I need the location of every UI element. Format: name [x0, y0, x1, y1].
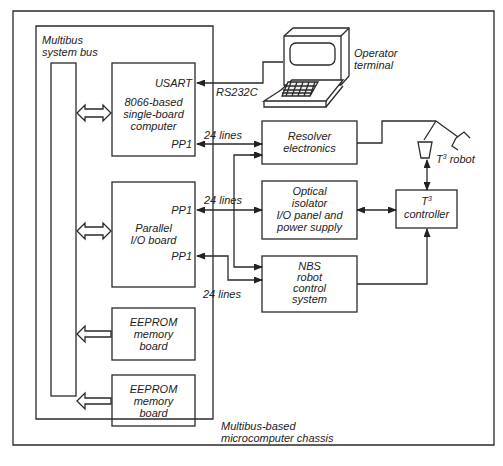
sbc-line1: 8066-based	[112, 96, 195, 108]
sbc-line3: computer	[112, 120, 195, 132]
lines-label-2: 24 lines	[204, 194, 242, 206]
robot-prefix: T	[436, 153, 443, 165]
sbc-pp1-label: PP1	[120, 138, 192, 150]
eeprom1-line3: board	[112, 340, 195, 352]
terminal-label-line1: Operator	[354, 47, 397, 59]
eeprom2-line1: EEPROM	[112, 383, 195, 395]
terminal-label-line2: terminal	[354, 59, 393, 71]
controller-line2: controller	[396, 208, 457, 220]
optical-line4: power supply	[262, 221, 357, 233]
optical-line2: isolator	[262, 197, 357, 209]
nbs-line4: system	[262, 293, 357, 305]
diagram-drawing	[0, 0, 503, 466]
bus-label-line1: Multibus	[42, 34, 83, 46]
resolver-line2: electronics	[262, 142, 357, 154]
eeprom2-line2: memory	[112, 395, 195, 407]
eeprom1-line1: EEPROM	[112, 316, 195, 328]
robot-suffix: robot	[447, 153, 475, 165]
sbc-usart-label: USART	[120, 77, 192, 89]
pio-pp1-bottom-label: PP1	[120, 250, 192, 262]
controller-sup: 3	[428, 195, 432, 202]
resolver-line1: Resolver	[262, 130, 357, 142]
bus-label-line2: system bus	[42, 46, 98, 58]
controller-prefix: T	[421, 195, 428, 207]
rs232-label: RS232C	[216, 86, 258, 98]
optical-line1: Optical	[262, 185, 357, 197]
pio-line2: I/O board	[112, 234, 195, 246]
chassis-label-line2: microcomputer chassis	[221, 432, 333, 444]
pio-pp1-top-label: PP1	[120, 204, 192, 216]
sbc-line2: single-board	[112, 108, 195, 120]
robot-label: T3 robot	[436, 153, 475, 165]
lines-label-1: 24 lines	[204, 129, 242, 141]
optical-line3: I/O panel and	[262, 209, 357, 221]
chassis-label-line1: Multibus-based	[221, 420, 296, 432]
eeprom2-line3: board	[112, 407, 195, 419]
pio-line1: Parallel	[112, 222, 195, 234]
controller-line1: T3	[396, 195, 457, 207]
lines-label-3: 24 lines	[203, 288, 241, 300]
eeprom1-line2: memory	[112, 328, 195, 340]
